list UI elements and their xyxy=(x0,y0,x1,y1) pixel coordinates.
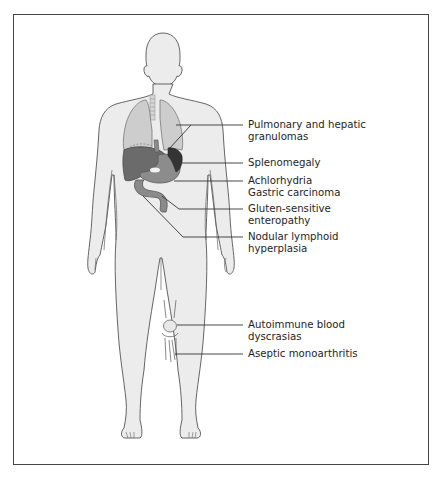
label-gluten: Gluten-sensitive enteropathy xyxy=(248,203,331,227)
trachea xyxy=(150,95,155,120)
label-nodular: Nodular lymphoid hyperplasia xyxy=(248,231,339,255)
body-outline xyxy=(88,33,235,438)
label-splenomegaly: Splenomegaly xyxy=(248,157,320,169)
body-diagram xyxy=(0,0,439,479)
head xyxy=(144,33,182,86)
label-aseptic: Aseptic monoarthritis xyxy=(248,348,358,360)
stomach-highlight xyxy=(150,168,160,173)
esophagus xyxy=(154,140,159,152)
label-pulmonary: Pulmonary and hepatic granulomas xyxy=(248,119,366,143)
label-autoimmune: Autoimmune blood dyscrasias xyxy=(248,319,345,343)
label-achlorhydria: Achlorhydria Gastric carcinoma xyxy=(248,175,340,199)
